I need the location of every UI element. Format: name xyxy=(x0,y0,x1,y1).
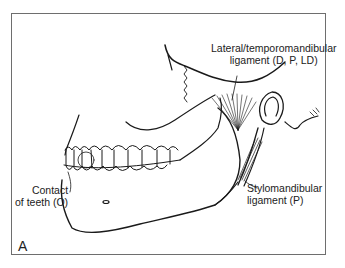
label-stylo-line1: Stylomandibular xyxy=(247,182,322,194)
label-contact-line1: Contact xyxy=(15,184,68,196)
label-stylo-line2: ligament (P) xyxy=(247,194,322,206)
label-contact-line2: of teeth (O) xyxy=(15,196,68,208)
panel-letter: A xyxy=(18,238,27,254)
label-lateral-temporomandibular-ligament: Lateral/temporomandibular ligament (D, P… xyxy=(211,42,337,66)
label-stylomandibular-ligament: Stylomandibular ligament (P) xyxy=(247,182,322,206)
jaw-skull-illustration xyxy=(0,0,345,268)
label-contact-of-teeth: Contact of teeth (O) xyxy=(15,184,68,208)
label-lateral-line1: Lateral/temporomandibular xyxy=(211,42,337,54)
label-lateral-line2: ligament (D, P, LD) xyxy=(211,54,337,66)
